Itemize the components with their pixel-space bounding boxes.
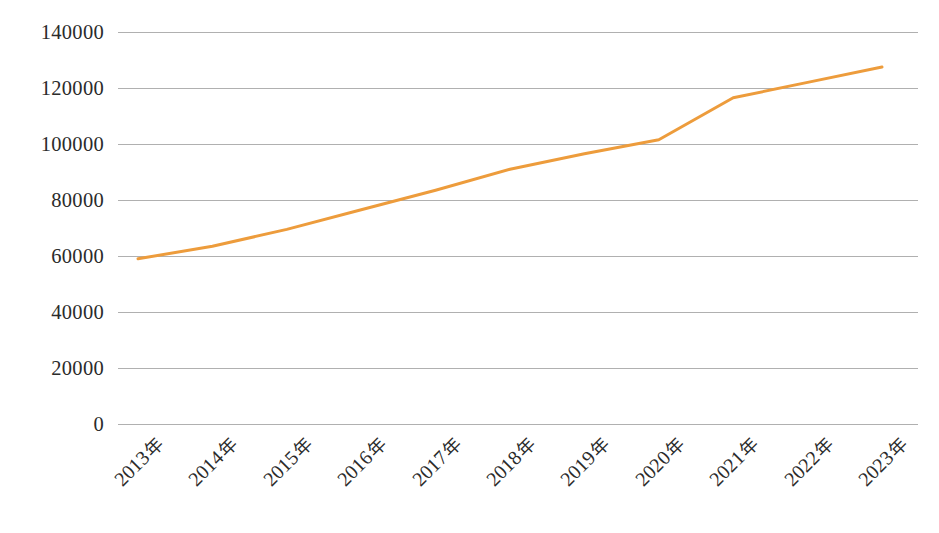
y-axis-tick-label: 0 xyxy=(93,413,104,436)
x-axis-tick-label: 2022年 xyxy=(777,430,838,491)
x-axis-tick-labels: 2013年2014年2015年2016年2017年2018年2019年2020年… xyxy=(118,424,918,533)
x-axis-tick-label: 2017年 xyxy=(405,430,466,491)
y-axis-tick-label: 100000 xyxy=(41,133,104,156)
y-axis-tick-labels: 020000400006000080000100000120000140000 xyxy=(0,32,104,424)
y-axis-tick-label: 40000 xyxy=(51,301,104,324)
y-axis-tick-label: 120000 xyxy=(41,77,104,100)
x-axis-tick-label: 2018年 xyxy=(480,430,541,491)
line-chart: 020000400006000080000100000120000140000 … xyxy=(0,0,939,533)
x-axis-tick-label: 2015年 xyxy=(256,430,317,491)
x-axis-tick-label: 2021年 xyxy=(703,430,764,491)
y-axis-tick-label: 140000 xyxy=(41,21,104,44)
x-axis-tick-label: 2016年 xyxy=(331,430,392,491)
plot-area xyxy=(118,32,918,424)
series-line-orange xyxy=(138,67,882,259)
x-axis-tick-label: 2023年 xyxy=(852,430,913,491)
y-axis-tick-label: 80000 xyxy=(51,189,104,212)
x-axis-tick-label: 2019年 xyxy=(554,430,615,491)
x-axis-tick-label: 2013年 xyxy=(108,430,169,491)
x-axis-tick-label: 2020年 xyxy=(628,430,689,491)
series-layer xyxy=(118,32,918,424)
y-axis-tick-label: 60000 xyxy=(51,245,104,268)
x-axis-tick-label: 2014年 xyxy=(182,430,243,491)
y-axis-tick-label: 20000 xyxy=(51,357,104,380)
